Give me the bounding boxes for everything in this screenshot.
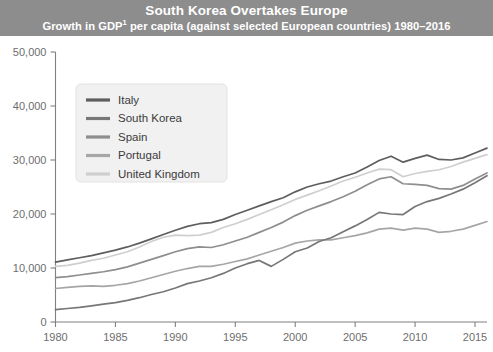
legend-label-italy: Italy bbox=[118, 94, 139, 106]
x-tick-label: 2000 bbox=[283, 331, 307, 343]
y-tick-label: 10,000 bbox=[13, 262, 47, 274]
x-tick-label: 2005 bbox=[343, 331, 367, 343]
y-tick-label: 40,000 bbox=[13, 100, 47, 112]
y-tick-label: 0 bbox=[40, 316, 46, 328]
chart-subtitle-before: Growth in GDP bbox=[42, 20, 122, 32]
legend-label-spain: Spain bbox=[118, 131, 147, 143]
legend-label-portugal: Portugal bbox=[118, 149, 161, 161]
x-tick-label: 1980 bbox=[43, 331, 67, 343]
x-tick-label: 1985 bbox=[103, 331, 127, 343]
x-tick-label: 2010 bbox=[403, 331, 427, 343]
legend-group: ItalySouth KoreaSpainPortugalUnited King… bbox=[76, 84, 227, 182]
x-tick-label: 1995 bbox=[223, 331, 247, 343]
series-line-south-korea bbox=[56, 176, 488, 310]
chart-header-band: South Korea Overtakes Europe Growth in G… bbox=[0, 0, 493, 36]
chart-title: South Korea Overtakes Europe bbox=[0, 2, 493, 19]
line-chart-svg: 010,00020,00030,00040,00050,000198019851… bbox=[0, 36, 493, 352]
chart-subtitle: Growth in GDP1 per capita (against selec… bbox=[0, 19, 493, 34]
series-line-portugal bbox=[56, 222, 488, 289]
y-tick-label: 30,000 bbox=[13, 154, 47, 166]
chart-figure: South Korea Overtakes Europe Growth in G… bbox=[0, 0, 493, 352]
plot-area-wrapper: 010,00020,00030,00040,00050,000198019851… bbox=[0, 36, 493, 352]
y-tick-label: 50,000 bbox=[13, 46, 47, 58]
y-tick-label: 20,000 bbox=[13, 208, 47, 220]
legend-label-united-kingdom: United Kingdom bbox=[118, 168, 200, 180]
legend-label-south-korea: South Korea bbox=[118, 112, 183, 124]
x-tick-label: 2015 bbox=[463, 331, 487, 343]
chart-subtitle-after: per capita (against selected European co… bbox=[127, 20, 451, 32]
x-tick-label: 1990 bbox=[163, 331, 187, 343]
series-line-spain bbox=[56, 173, 488, 278]
